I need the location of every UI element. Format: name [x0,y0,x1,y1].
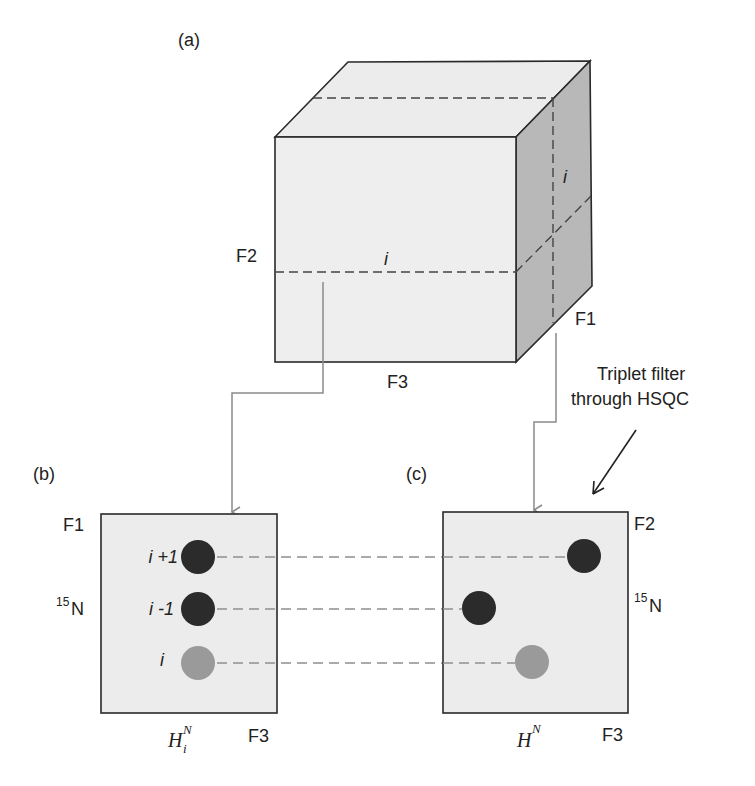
plot-b-axis-f1: F1 [63,515,84,535]
annotation-arrow [593,430,636,494]
annotation-line2: through HSQC [571,389,689,409]
plot-b-axis-hn-sub: i [183,741,187,756]
peak-b-i [181,646,215,680]
peak-b-label-i-minus-1: i -1 [149,599,174,619]
peak-c-i [515,645,549,679]
plot-b-axis-15n: N [71,599,84,619]
peak-c-i-minus-1 [462,591,496,625]
plot-c-axis-f2: F2 [634,514,655,534]
plot-b-axis-hn-main: H [167,729,184,751]
cube-front-face [275,137,516,362]
plot-c-axis-f3: F3 [602,725,623,745]
peak-b-i-minus-1 [181,592,215,626]
plot-c-axis-15n: N [649,596,662,616]
cube-axis-f1: F1 [575,309,596,329]
nmr-triplet-diagram: (a) i i F2 F3 F1 Triplet filter through … [0,0,755,786]
plot-c: F2 15 N H N F3 [443,512,662,751]
connector-to-c [534,333,556,510]
peak-b-label-i-plus-1: i +1 [148,547,178,567]
panel-b-label: (b) [33,464,55,484]
plot-c-axis-hn-main: H [516,729,533,751]
plot-b-axis-15n-sup: 15 [56,595,70,609]
plot-c-axis-15n-sup: 15 [634,591,648,605]
peak-b-i-plus-1 [181,540,215,574]
annotation-line1: Triplet filter [597,364,685,384]
panel-a-label: (a) [178,30,200,50]
plot-b-axis-hn-sup: N [182,722,193,737]
cube-axis-f2: F2 [236,246,257,266]
plot-b-axis-f3: F3 [248,726,269,746]
plot-c-axis-hn-sup: N [531,721,542,736]
peak-c-i-plus-1 [567,539,601,573]
cube-axis-f3: F3 [387,372,408,392]
spectrum-cube: i i F2 F3 F1 [236,61,596,392]
panel-c-label: (c) [406,464,427,484]
